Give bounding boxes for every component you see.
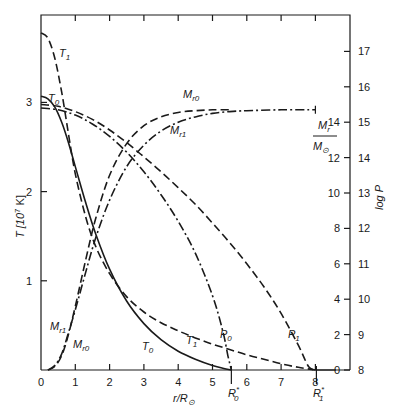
x-tick-label: 3 (141, 376, 147, 388)
y-left-tick-label: 3 (26, 96, 32, 108)
label-Mr1: Mr1 (50, 320, 66, 335)
label-T1: T1 (186, 334, 197, 349)
y-right-mass-label: 2 (334, 329, 340, 341)
y-right-logp-label: 10 (358, 293, 370, 305)
x-tick-label: 0 (38, 376, 44, 388)
y-right-mass-label: 8 (334, 222, 340, 234)
y-right-logp-label: 12 (358, 222, 370, 234)
stellar-structure-chart: 0123456781238910111213141516170246810121… (0, 0, 401, 420)
x-tick-label: 2 (107, 376, 113, 388)
y-right-logp-label: 14 (358, 152, 370, 164)
y-left-axis-label: T [107 K] (13, 195, 26, 238)
label-Mr0: Mr0 (183, 88, 200, 103)
curve-Mr0 (48, 110, 230, 370)
curve-Mr1 (48, 110, 316, 370)
label-Mr1: Mr1 (170, 124, 186, 139)
y-right-logp-label: 17 (358, 45, 370, 57)
y-right-mass-label: 6 (334, 258, 340, 270)
y-right-logp-label: 8 (358, 364, 364, 376)
x-tick-label: 7 (278, 376, 284, 388)
y-right-logp-label: 13 (358, 187, 370, 199)
x-axis-label: r/R⊙ (173, 392, 195, 407)
y-right-mass-label: 12 (328, 152, 340, 164)
label-Mr0: Mr0 (73, 338, 90, 353)
mass-denominator: M⊙ (313, 140, 329, 155)
y-right-logp-label: 16 (358, 81, 370, 93)
y-left-tick-label: 1 (26, 275, 32, 287)
label-P1: P1 (288, 328, 300, 343)
y-right-logp-label: 9 (358, 329, 364, 341)
label-T0: T0 (48, 92, 60, 107)
y-right-mass-label: 10 (328, 187, 340, 199)
y-left-tick-label: 2 (26, 186, 32, 198)
y-right-axis-label: log P (373, 184, 385, 210)
curve-P1 (41, 105, 315, 371)
x-tick-label: 1 (72, 376, 78, 388)
x-tick-label: 5 (209, 376, 215, 388)
x-tick-label: 6 (244, 376, 250, 388)
label-P0: P0 (220, 328, 232, 343)
label-T1: T1 (59, 47, 70, 62)
axes: 0123456781238910111213141516170246810121… (26, 15, 370, 388)
label-T0: T0 (142, 340, 154, 355)
r0-star-label: R*0 (228, 385, 240, 403)
x-tick-label: 4 (175, 376, 181, 388)
r1-star-label: R*1 (313, 385, 325, 403)
plot-frame (41, 15, 350, 370)
y-right-mass-label: 4 (334, 293, 340, 305)
curve-T1 (41, 33, 315, 370)
curves (41, 33, 315, 370)
y-right-logp-label: 11 (358, 258, 369, 270)
y-right-logp-label: 15 (358, 116, 370, 128)
